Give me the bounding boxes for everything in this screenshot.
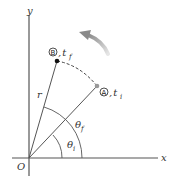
radius-label: r: [37, 89, 43, 100]
point-b: [55, 59, 60, 64]
dashed-path: [57, 61, 97, 86]
point-b-label: B ,t f: [49, 47, 73, 61]
point-a-letter: A: [102, 89, 107, 97]
motion-arrow-icon: [79, 30, 108, 54]
y-axis-label: y: [26, 5, 33, 16]
point-a: [95, 84, 100, 89]
theta-i-sub: i: [73, 145, 75, 153]
theta-f-arc: [44, 107, 82, 158]
point-b-letter: B: [51, 49, 56, 57]
point-b-time-sub: f: [68, 53, 73, 61]
x-axis-label: x: [161, 152, 167, 163]
theta-i-arc: [53, 135, 62, 158]
point-a-time: ,t: [109, 87, 118, 98]
diagram-canvas: y x O B ,t f A ,t i r θ f θ i: [0, 0, 173, 178]
theta-f-sub: f: [80, 125, 85, 133]
point-a-time-sub: i: [120, 93, 122, 101]
point-a-label: A ,t i: [100, 87, 122, 101]
point-b-time: ,t: [58, 47, 67, 58]
origin-label: O: [17, 161, 25, 172]
